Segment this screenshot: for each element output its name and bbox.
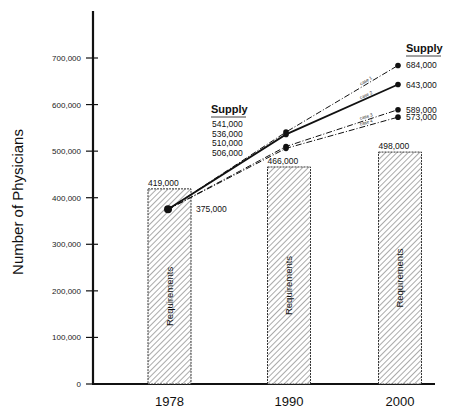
supply-point: [395, 63, 401, 69]
y-tick-label: 700,000: [52, 54, 81, 63]
supply-point: [283, 146, 289, 152]
supply-point: [395, 107, 401, 113]
x-tick-label: 1978: [155, 394, 184, 409]
bar-label: Requirements: [283, 256, 294, 315]
chart-labels: Number of Physicians197819902000419,000R…: [9, 42, 444, 409]
supply-value-1990: 506,000: [212, 148, 243, 158]
supply-value-1990: 510,000: [212, 138, 243, 148]
y-axis-label: Number of Physicians: [9, 129, 26, 275]
start-value-label: 375,000: [196, 204, 227, 214]
supply-point: [283, 132, 289, 138]
y-tick-label: 400,000: [52, 194, 81, 203]
supply-title-2000: Supply: [406, 42, 444, 54]
bar-value-label: 466,000: [268, 156, 299, 166]
y-tick-label: 0: [77, 380, 82, 389]
x-tick-label: 2000: [386, 394, 415, 409]
start-point: [164, 205, 172, 213]
bar-value-label: 498,000: [379, 141, 410, 151]
supply-value-2000: 684,000: [406, 60, 437, 70]
supply-value-1990: 536,000: [212, 129, 243, 139]
supply-title-1990: Supply: [211, 103, 249, 115]
supply-value-2000: 573,000: [406, 112, 437, 122]
bar-value-label: 419,000: [148, 178, 179, 188]
chart: 0100,000200,000300,000400,000500,000600,…: [0, 0, 451, 417]
bar-label: Requirements: [164, 267, 175, 326]
y-tick-label: 500,000: [52, 147, 81, 156]
supply-value-1990: 541,000: [212, 119, 243, 129]
y-tick-label: 600,000: [52, 101, 81, 110]
y-tick-label: 100,000: [52, 333, 81, 342]
y-tick-label: 300,000: [52, 240, 81, 249]
axes: 0100,000200,000300,000400,000500,000600,…: [52, 11, 435, 389]
supply-value-2000: 643,000: [406, 80, 437, 90]
y-tick-label: 200,000: [52, 287, 81, 296]
x-tick-label: 1990: [275, 394, 304, 409]
supply-point: [395, 82, 401, 88]
bar-label: Requirements: [394, 248, 405, 307]
supply-point: [395, 114, 401, 120]
